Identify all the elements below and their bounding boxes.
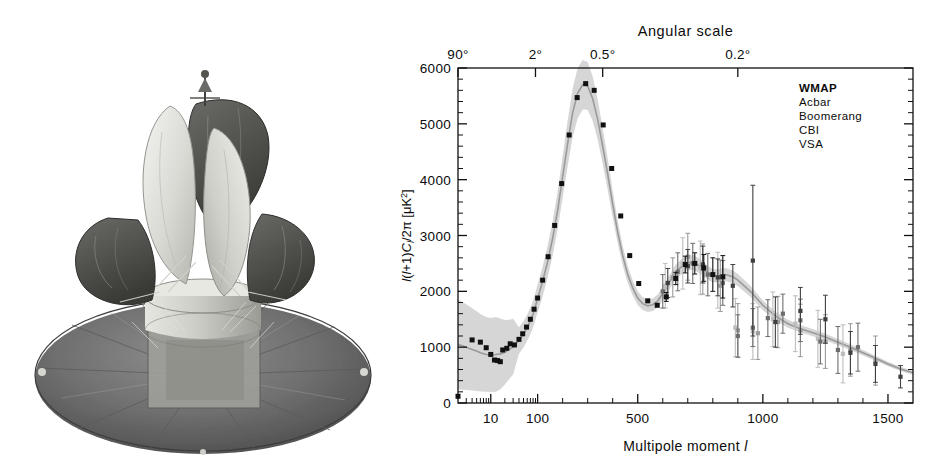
model-curve bbox=[458, 85, 913, 373]
y-tick-label: 3000 bbox=[420, 229, 451, 244]
y-tick-label: 0 bbox=[443, 396, 451, 411]
cmb-power-spectrum-chart: 0100020003000400050006000101005001000150… bbox=[395, 0, 939, 475]
x-tick-label: 1500 bbox=[872, 411, 903, 426]
series-acbar bbox=[665, 185, 903, 388]
spacecraft-photo-panel bbox=[0, 0, 430, 475]
y-tick-label: 4000 bbox=[420, 173, 451, 188]
x-tick-label: 1000 bbox=[747, 411, 778, 426]
y-axis-title: l(l+1)Cl/2π [μK2] bbox=[399, 189, 416, 282]
x-axis-title: Multipole moment l bbox=[623, 438, 748, 454]
top-tick-label: 2° bbox=[529, 47, 543, 62]
radiator-panel-right bbox=[247, 214, 314, 303]
series-cbi bbox=[670, 233, 878, 385]
legend: WMAPAcbarBoomerangCBIVSA bbox=[799, 82, 862, 150]
y-tick-label: 2000 bbox=[420, 284, 451, 299]
y-tick-label: 5000 bbox=[420, 117, 451, 132]
legend-item-vsa[interactable]: VSA bbox=[799, 138, 823, 150]
legend-item-acbar[interactable]: Acbar bbox=[799, 96, 831, 108]
x-axis: 1010050010001500 bbox=[466, 394, 903, 426]
spacecraft-illustration bbox=[0, 0, 430, 475]
top-tick-label: 0.2° bbox=[725, 47, 750, 62]
radiator-panel-left bbox=[76, 218, 156, 305]
legend-item-cbi[interactable]: CBI bbox=[799, 124, 819, 136]
x-tick-label: 10 bbox=[483, 411, 499, 426]
top-tick-label: 90° bbox=[447, 47, 468, 62]
x-tick-label: 500 bbox=[626, 411, 649, 426]
x-tick-label: 100 bbox=[526, 411, 549, 426]
chart-svg: 0100020003000400050006000101005001000150… bbox=[395, 0, 939, 475]
top-axis-angular-scale: 90°2°0.5°0.2°Angular scale bbox=[447, 23, 750, 77]
legend-item-boomerang[interactable]: Boomerang bbox=[799, 110, 862, 122]
top-axis-title: Angular scale bbox=[638, 23, 734, 39]
legend-item-wmap[interactable]: WMAP bbox=[799, 82, 837, 94]
y-tick-label: 1000 bbox=[420, 340, 451, 355]
figure-root: 0100020003000400050006000101005001000150… bbox=[0, 0, 939, 475]
y-tick-label: 6000 bbox=[420, 61, 451, 76]
top-tick-label: 0.5° bbox=[590, 47, 615, 62]
